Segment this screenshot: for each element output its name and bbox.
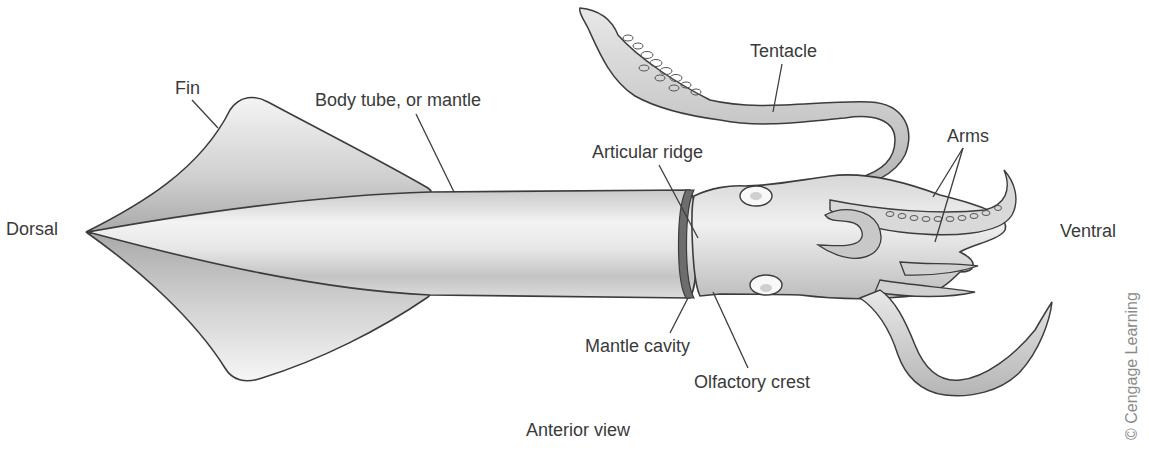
ventral-label: Ventral <box>1060 222 1116 240</box>
dorsal-label: Dorsal <box>6 220 58 238</box>
body-tube-label: Body tube, or mantle <box>315 91 481 109</box>
copyright-credit: © Cengage Learning <box>1124 292 1140 440</box>
arms-label: Arms <box>947 127 989 145</box>
olfactory-crest-label: Olfactory crest <box>694 373 810 391</box>
tentacle-label: Tentacle <box>750 42 817 60</box>
fin-leader <box>192 100 218 128</box>
lower-tentacle <box>860 290 1052 396</box>
arms-leader-1 <box>933 148 963 197</box>
squid-diagram: Dorsal Ventral Fin Body tube, or mantle … <box>0 0 1149 453</box>
squid-illustration <box>0 0 1149 453</box>
articular-ridge-label: Articular ridge <box>592 143 703 161</box>
mantle-cavity-leader <box>670 298 688 333</box>
body-tube-leader <box>416 114 454 192</box>
caption: Anterior view <box>526 421 630 439</box>
mantle-cavity-label: Mantle cavity <box>585 337 690 355</box>
olfactory-crest-leader <box>713 292 748 368</box>
fin-label: Fin <box>175 79 200 97</box>
head <box>692 175 1006 299</box>
